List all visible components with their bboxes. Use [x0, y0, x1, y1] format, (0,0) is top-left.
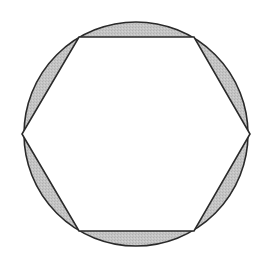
hexagon-in-circle-diagram: [0, 0, 268, 256]
figure-canvas: [0, 0, 268, 256]
